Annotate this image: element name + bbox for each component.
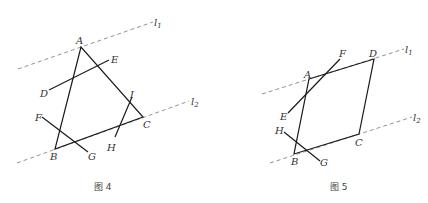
segment-de xyxy=(49,60,109,90)
figure-4: A B C D E F G H I l1 l2 图 4 xyxy=(17,17,199,192)
point-label-f: F xyxy=(338,48,347,59)
segment-hi xyxy=(115,97,132,137)
figure-caption: 图 5 xyxy=(330,182,348,192)
point-label-f: F xyxy=(34,112,43,123)
segment-ef xyxy=(288,59,340,113)
point-label-h: H xyxy=(274,125,284,136)
point-label-a: A xyxy=(75,35,83,46)
point-label-i: I xyxy=(129,89,135,100)
point-label-g: G xyxy=(320,157,328,168)
segment-fg xyxy=(42,117,88,152)
line-label-l2: l2 xyxy=(191,96,199,109)
geometry-figures: A B C D E F G H I l1 l2 图 4 A B C D E F … xyxy=(0,0,428,203)
point-label-d: D xyxy=(368,48,377,59)
point-label-g: G xyxy=(88,151,96,162)
point-label-h: H xyxy=(106,142,116,153)
segment-hg xyxy=(284,132,320,161)
point-label-e: E xyxy=(279,111,288,122)
line-l1 xyxy=(18,22,153,69)
point-label-b: B xyxy=(290,156,298,167)
point-label-a: A xyxy=(303,69,311,80)
point-label-e: E xyxy=(110,54,119,65)
line-label-l1: l1 xyxy=(405,44,413,57)
point-label-b: B xyxy=(49,151,57,162)
figure-caption: 图 4 xyxy=(94,182,112,192)
figure-5: A B C D E F G H l1 l2 图 5 xyxy=(262,44,421,192)
point-label-d: D xyxy=(39,88,48,99)
line-label-l1: l1 xyxy=(154,17,162,30)
line-label-l2: l2 xyxy=(413,112,421,125)
point-label-c: C xyxy=(355,137,363,148)
point-label-c: C xyxy=(143,119,151,130)
